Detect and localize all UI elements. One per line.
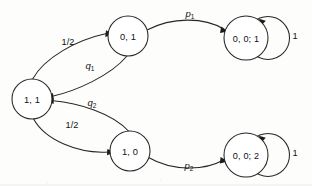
transition-label-p1: p1 (184, 8, 194, 20)
state-node-1-0[interactable]: 1, 0 (110, 131, 150, 171)
self-loop-label-s002: 1 (292, 148, 297, 158)
state-node-0-1[interactable]: 0, 1 (108, 16, 148, 56)
state-node-1-1[interactable]: 1, 1 (12, 79, 52, 119)
transition-label-q2: q2 (87, 97, 96, 109)
self-loop-label-s001: 1 (292, 31, 297, 41)
transition-s01-to-s001 (147, 20, 228, 33)
state-diagram-canvas: 1, 1 0, 1 1, 0 0, 0; 1 0, 0; 2 1/2 q1 p1… (0, 0, 312, 186)
transition-label-half-upper: 1/2 (62, 37, 75, 47)
state-node-0-0-2[interactable]: 0, 0; 2 (224, 133, 268, 177)
state-label-0-0-1: 0, 0; 1 (233, 34, 259, 44)
state-label-1-0: 1, 0 (122, 147, 138, 157)
markov-chain-diagram: 1, 1 0, 1 1, 0 0, 0; 1 0, 0; 2 1/2 q1 p1… (0, 0, 312, 186)
state-label-0-0-2: 0, 0; 2 (233, 151, 259, 161)
transition-label-q1: q1 (85, 60, 94, 72)
transition-label-q2-subscript: 2 (93, 101, 97, 108)
transition-label-q1-subscript: 1 (91, 64, 95, 71)
state-label-1-1: 1, 1 (24, 95, 40, 105)
transition-label-p2-subscript: 2 (190, 164, 194, 171)
transition-label-p2: p2 (183, 160, 193, 172)
transition-label-half-lower: 1/2 (66, 120, 79, 130)
transition-label-p1-subscript: 1 (191, 12, 195, 19)
state-label-0-1: 0, 1 (120, 32, 136, 42)
state-node-0-0-1[interactable]: 0, 0; 1 (224, 16, 268, 60)
